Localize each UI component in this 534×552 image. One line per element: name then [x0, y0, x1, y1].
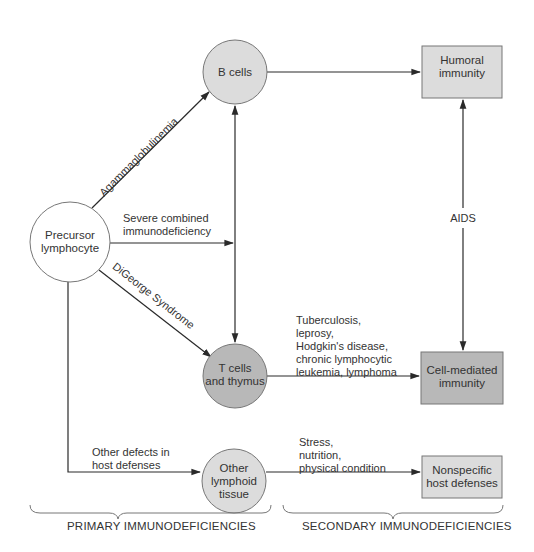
disease-line-5: leukemia, lymphoma	[296, 366, 397, 379]
precursor-label-line1: Precursor	[45, 229, 95, 242]
t-to-cell-mediated-label: Tuberculosis, leprosy, Hodgkin's disease…	[296, 314, 397, 379]
scid-label-line2: immunodeficiency	[123, 225, 211, 238]
other-lymphoid-label: Other lymphoid tissue	[202, 461, 266, 501]
humoral-label-line2: immunity	[439, 67, 485, 80]
nonspecific-label: Nonspecific host defenses	[422, 462, 502, 492]
primary-immunodeficiencies-label: PRIMARY IMMUNODEFICIENCIES	[67, 520, 256, 532]
cell-mediated-label-line1: Cell-mediated	[427, 364, 498, 377]
cell-mediated-label-line2: immunity	[439, 377, 485, 390]
other-lymphoid-label-line3: tissue	[219, 488, 249, 501]
t-cells-label: T cells and thymus	[203, 357, 267, 393]
cell-mediated-label: Cell-mediated immunity	[421, 362, 503, 392]
other-defects-label: Other defects in host defenses	[92, 446, 170, 472]
b-cells-label-text: B cells	[218, 66, 252, 79]
scid-label: Severe combined immunodeficiency	[123, 212, 211, 238]
other-defects-label-line1: Other defects in	[92, 446, 170, 459]
precursor-label: Precursor lymphocyte	[30, 222, 110, 262]
factor-line-2: nutrition,	[299, 449, 386, 462]
other-to-nonspecific-label: Stress, nutrition, physical condition	[299, 436, 386, 475]
disease-line-2: leprosy,	[296, 327, 397, 340]
t-cells-label-line1: T cells	[218, 362, 251, 375]
secondary-immunodeficiencies-label: SECONDARY IMMUNODEFICIENCIES	[302, 520, 512, 532]
t-cells-label-line2: and thymus	[205, 375, 264, 388]
precursor-label-line2: lymphocyte	[41, 242, 99, 255]
humoral-label-line1: Humoral	[440, 54, 483, 67]
humoral-label: Humoral immunity	[422, 52, 502, 82]
factor-line-3: physical condition	[299, 462, 386, 475]
disease-line-4: chronic lymphocytic	[296, 353, 397, 366]
aids-label: AIDS	[443, 212, 483, 225]
edge-digeorge	[99, 270, 211, 357]
nonspecific-label-line2: host defenses	[426, 477, 498, 490]
disease-line-3: Hodgkin's disease,	[296, 340, 397, 353]
disease-line-1: Tuberculosis,	[296, 314, 397, 327]
brace-secondary	[283, 505, 503, 519]
factor-line-1: Stress,	[299, 436, 386, 449]
other-defects-label-line2: host defenses	[92, 459, 170, 472]
other-lymphoid-label-line1: Other	[220, 462, 249, 475]
nonspecific-label-line1: Nonspecific	[432, 464, 491, 477]
other-lymphoid-label-line2: lymphoid	[211, 475, 257, 488]
scid-label-line1: Severe combined	[123, 212, 211, 225]
b-cells-label: B cells	[203, 63, 267, 81]
